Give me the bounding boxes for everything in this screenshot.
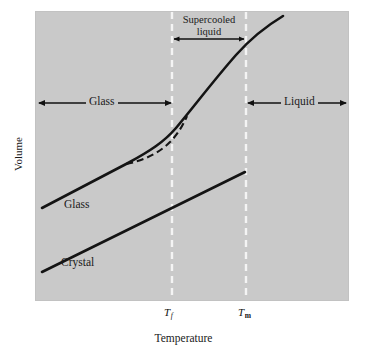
tick-label-tm-sub: m [245,311,251,320]
supercooled-liquid-label: Supercooled liquid [163,14,255,38]
tick-label-tf-sub: f [171,311,173,320]
volume-temperature-figure: Volume Temperature Tf Tm Supercooled liq… [0,0,367,354]
glass-region-label: Glass [86,95,118,107]
metastable-dashed-branch [126,116,187,164]
supercooled-liquid-label-line2: liquid [163,26,255,38]
tick-label-tm: Tm [238,306,250,318]
x-axis-label: Temperature [0,332,367,344]
crystal-curve-label: Crystal [61,256,94,268]
tick-label-tf: Tf [164,306,172,318]
liquid-region-label: Liquid [281,95,318,107]
supercooled-liquid-label-line1: Supercooled [183,14,236,25]
y-axis-label: Volume [12,124,24,184]
glass-curve-label: Glass [64,198,90,210]
tick-label-tm-base: T [238,306,244,318]
plot-graphics [0,0,367,354]
tick-label-tf-base: T [164,306,170,318]
